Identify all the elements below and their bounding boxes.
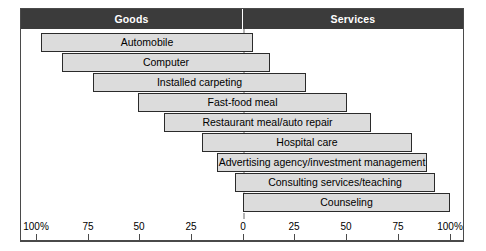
bar-restaurant-meal-auto-repair: Restaurant meal/auto repair (164, 113, 371, 132)
axis-tick (450, 234, 451, 241)
bar-computer: Computer (62, 53, 270, 72)
bar-advertising-agency-investment-management: Advertising agency/investment management (217, 153, 427, 172)
header-goods-label: Goods (114, 13, 148, 25)
bar-hospital-care: Hospital care (202, 133, 412, 152)
bar-fast-food-meal: Fast-food meal (138, 93, 347, 112)
axis-tick-label: 25 (185, 221, 196, 232)
bar-label: Fast-food meal (207, 97, 277, 108)
axis-tick (191, 234, 192, 241)
bar-label: Restaurant meal/auto repair (202, 117, 332, 128)
header-services-label: Services (331, 13, 376, 25)
axis-tick-label: 75 (82, 221, 93, 232)
bar-label: Consulting services/teaching (268, 177, 402, 188)
axis-tick-label-zero: 0 (240, 221, 246, 232)
plot-area: Automobile Computer Installed carpeting … (20, 29, 464, 219)
axis-tick (139, 234, 140, 241)
bar-label: Counseling (320, 197, 373, 208)
bar-counseling: Counseling (243, 193, 450, 212)
axis-tick (88, 234, 89, 241)
axis-tick-label: 50 (133, 221, 144, 232)
bar-automobile: Automobile (41, 33, 253, 52)
axis-tick (346, 234, 347, 241)
axis-tick-label: 50 (340, 221, 351, 232)
bar-label: Hospital care (276, 137, 337, 148)
bar-label: Automobile (121, 37, 174, 48)
bar-installed-carpeting: Installed carpeting (93, 73, 306, 92)
bar-label: Installed carpeting (157, 77, 242, 88)
header-band: Goods Services (21, 9, 463, 29)
axis-tick-label: 25 (288, 221, 299, 232)
axis-tick (294, 234, 295, 241)
bar-consulting-services-teaching: Consulting services/teaching (235, 173, 435, 192)
bar-label: Advertising agency/investment management (219, 157, 426, 168)
axis-tick-label: 100% (437, 221, 463, 232)
axis-tick (36, 234, 37, 241)
goods-services-continuum-chart: Goods Services Automobile Computer Insta… (0, 0, 486, 251)
x-axis: 100% 75 50 25 0 25 50 75 100% (20, 219, 464, 242)
axis-tick-label: 75 (392, 221, 403, 232)
axis-tick-zero (243, 234, 244, 241)
axis-tick (398, 234, 399, 241)
header-goods: Goods (21, 9, 243, 29)
bar-label: Computer (143, 57, 189, 68)
axis-tick-label: 100% (23, 221, 49, 232)
header-services: Services (243, 9, 463, 29)
